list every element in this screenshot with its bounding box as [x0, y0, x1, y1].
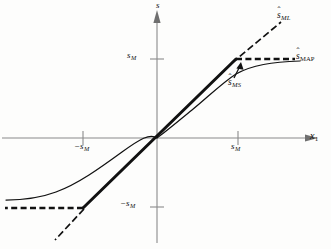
- estimator-plot-svg: [0, 0, 331, 249]
- ml-hat-group: ˆs: [277, 11, 281, 21]
- x-axis-label: x1: [310, 131, 318, 143]
- y-tick-positive-subscript: M: [131, 54, 136, 61]
- y-tick-negative-subscript: M: [130, 202, 135, 209]
- x-tick-label-positive: sM: [231, 142, 240, 152]
- curve-map-linear: [83, 59, 236, 208]
- curve-map-group: [5, 59, 295, 208]
- y-axis-label-text: s: [156, 0, 160, 10]
- curve-label-map: ˆsMAP: [296, 52, 315, 63]
- y-tick-positive-base: s: [127, 50, 131, 60]
- y-tick-negative-base: −s: [120, 198, 130, 208]
- x-tick-label-negative: −sM: [74, 142, 89, 152]
- curve-ml-group: [55, 22, 281, 240]
- ms-hat-icon: ˆ: [228, 73, 231, 82]
- curve-label-ml: ˆsML: [277, 11, 290, 22]
- ms-pointer-arrow-icon: [236, 62, 243, 70]
- ml-label-subscript: ML: [281, 14, 290, 21]
- ml-hat-icon: ˆ: [277, 6, 280, 15]
- curve-ms-group: [6, 61, 300, 200]
- x-axis-label-base: x: [310, 130, 314, 141]
- figure-container: s x1 sM −sM sM −sM ˆsML ˆsMAP ˆsMS: [0, 0, 331, 249]
- y-axis-label: s: [156, 1, 160, 10]
- map-hat-group: ˆs: [296, 52, 300, 62]
- curve-label-ms: ˆsMS: [228, 78, 241, 89]
- x-tick-negative-subscript: M: [84, 145, 89, 152]
- ms-hat-group: ˆs: [228, 78, 232, 88]
- y-tick-label-positive: sM: [127, 51, 136, 61]
- ms-label-subscript: MS: [232, 81, 241, 88]
- curve-ml-upper: [232, 22, 281, 63]
- x-tick-positive-subscript: M: [235, 145, 240, 152]
- curve-ms-path: [6, 61, 300, 200]
- map-label-subscript: MAP: [300, 55, 314, 62]
- ms-annotation-arrow-group: [234, 62, 244, 78]
- y-axis-arrow-icon: [153, 10, 160, 23]
- map-hat-icon: ˆ: [296, 47, 299, 56]
- x-axis-label-subscript: 1: [315, 135, 319, 143]
- x-tick-negative-base: −s: [74, 141, 84, 151]
- curve-ml-lower: [55, 209, 84, 240]
- x-tick-positive-base: s: [231, 141, 235, 151]
- y-tick-label-negative: −sM: [120, 199, 135, 209]
